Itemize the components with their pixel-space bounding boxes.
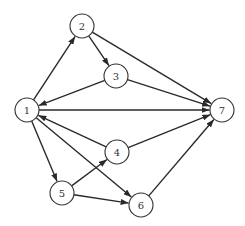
edge-5-to-6 [74,195,129,203]
node-label: 5 [59,188,65,199]
edge-4-to-7 [128,115,210,148]
node-label: 2 [79,21,85,32]
node-2: 2 [70,14,94,38]
edge-1-to-5 [32,121,57,181]
edge-3-to-7 [127,80,210,107]
nodes-layer: 1234567 [15,14,234,217]
node-label: 4 [114,147,120,158]
edge-1-to-2 [34,36,76,100]
node-label: 6 [138,200,144,211]
node-1: 1 [15,98,39,122]
node-label: 7 [219,105,225,116]
node-label: 3 [113,71,119,82]
edge-3-to-1 [39,80,105,105]
edges-layer [32,32,214,203]
node-4: 4 [105,140,129,164]
node-5: 5 [50,181,74,205]
edge-4-to-1 [38,115,106,147]
node-7: 7 [210,98,234,122]
directed-graph: 1234567 [0,0,245,226]
edge-6-to-7 [149,120,214,196]
node-6: 6 [129,193,153,217]
node-label: 1 [24,105,30,116]
node-3: 3 [104,64,128,88]
